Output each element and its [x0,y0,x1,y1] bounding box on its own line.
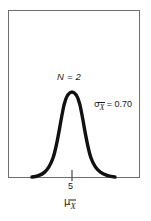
sampling-distribution-figure: N = 2 σX= 0.70 5 μX [0,0,151,221]
x-tick-value-label: 5 [68,182,73,191]
mean-axis-label: μX [64,196,76,207]
normal-curve-graphic [0,0,151,221]
sample-size-label: N = 2 [57,72,81,82]
standard-error-value: = 0.70 [107,100,132,109]
mu-subscript-xbar: X [70,200,75,210]
sample-size-text: N = 2 [57,71,81,82]
standard-error-label: σX= 0.70 [94,99,132,109]
sigma-subscript-xbar: X [100,102,105,111]
